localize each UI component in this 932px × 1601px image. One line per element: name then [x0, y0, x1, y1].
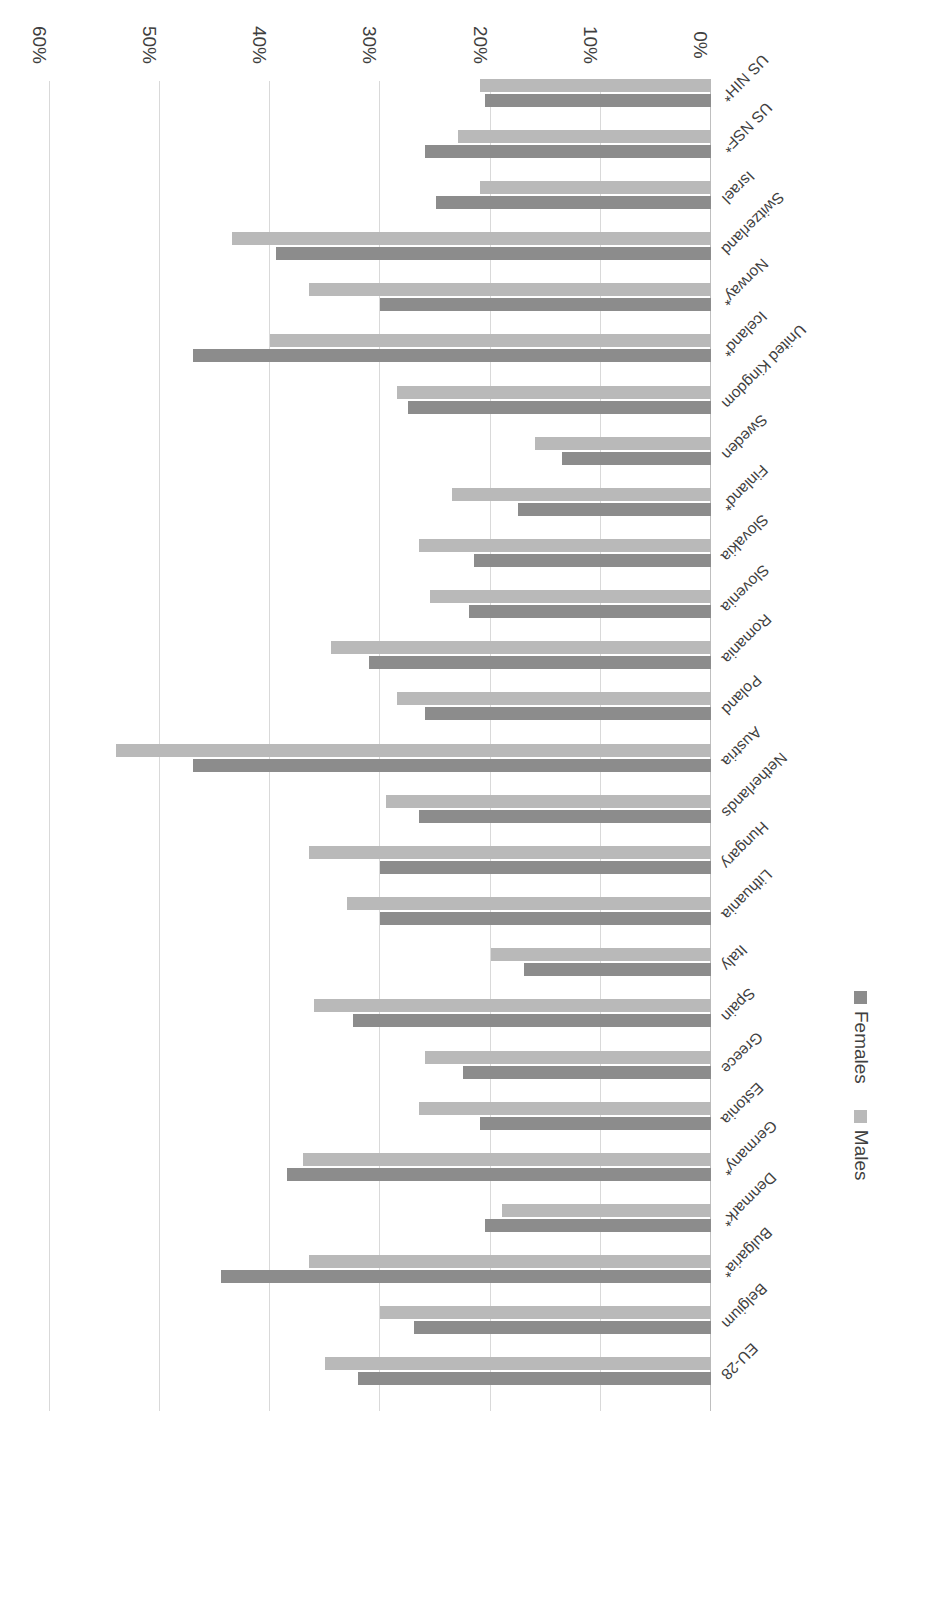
bar-females	[485, 94, 711, 107]
bar-group	[50, 1104, 711, 1155]
bar-group	[50, 951, 711, 1002]
bar-group	[50, 183, 711, 234]
bar-females	[193, 349, 711, 362]
category-label: Hungary	[718, 818, 773, 873]
category-label: Greece	[718, 1028, 767, 1077]
bar-females	[193, 759, 711, 772]
category-label: Slovakia	[718, 511, 773, 566]
rotated-chart-figure: EU-28BelgiumBulgaria*Denmark*Germany*Est…	[0, 0, 932, 1601]
category-label: Iceland*	[718, 308, 771, 361]
value-axis-labels: 0%10%20%30%40%50%60%	[50, 3, 711, 73]
bar-group	[50, 337, 711, 388]
bar-females	[562, 452, 711, 465]
bar-females	[287, 1168, 711, 1181]
bar-group	[50, 1206, 711, 1257]
value-label: 60%	[28, 26, 50, 64]
bar-group	[50, 695, 711, 746]
bar-group	[50, 644, 711, 695]
bar-females	[381, 912, 712, 925]
bar-group	[50, 1002, 711, 1053]
bar-group	[50, 848, 711, 899]
bar-group	[50, 797, 711, 848]
bar-females	[419, 810, 711, 823]
bar-females	[276, 247, 711, 260]
category-label: Lithuania	[718, 866, 776, 924]
category-label: Austria	[718, 723, 765, 770]
bar-rows	[50, 81, 711, 1411]
bar-group	[50, 1155, 711, 1206]
bar-group	[50, 81, 711, 132]
category-axis-labels: EU-28BelgiumBulgaria*Denmark*Germany*Est…	[714, 81, 932, 1411]
value-label: 50%	[138, 26, 160, 64]
bar-females	[425, 145, 711, 158]
legend-swatch-icon	[855, 1110, 868, 1123]
bar-group	[50, 132, 711, 183]
category-label: Belgium	[718, 1280, 771, 1333]
bar-group	[50, 286, 711, 337]
bar-group	[50, 899, 711, 950]
bar-females	[414, 1321, 711, 1334]
legend-label: Males	[850, 1130, 872, 1181]
bar-group	[50, 1309, 711, 1360]
value-label: 0%	[689, 31, 711, 58]
category-label: US NIH*	[718, 50, 773, 105]
bar-group	[50, 1360, 711, 1411]
category-label: Sweden	[718, 410, 771, 463]
bar-females	[358, 1372, 711, 1385]
bar-females	[480, 1117, 711, 1130]
bar-females	[221, 1270, 711, 1283]
bar-females	[381, 298, 712, 311]
bar-group	[50, 1053, 711, 1104]
bar-females	[474, 554, 711, 567]
category-label: Denmark*	[718, 1168, 780, 1230]
legend-item: Males	[850, 1110, 872, 1181]
bar-group	[50, 234, 711, 285]
category-label: Italy	[718, 941, 751, 974]
category-label: Romania	[718, 611, 775, 668]
bar-group	[50, 746, 711, 797]
bar-males	[480, 79, 711, 92]
bar-females	[436, 196, 711, 209]
bar-chart: EU-28BelgiumBulgaria*Denmark*Germany*Est…	[0, 0, 932, 1601]
category-label: US NSF*	[718, 98, 776, 156]
value-label: 10%	[579, 26, 601, 64]
category-label: Slovenia	[718, 561, 773, 616]
category-label: Israel	[718, 167, 758, 207]
bar-group	[50, 541, 711, 592]
bar-females	[463, 1066, 711, 1079]
category-label: EU-28	[718, 1340, 762, 1384]
bar-females	[381, 861, 712, 874]
bar-females	[524, 963, 711, 976]
bar-females	[518, 503, 711, 516]
bar-group	[50, 490, 711, 541]
value-label: 20%	[469, 26, 491, 64]
category-label: Spain	[718, 985, 759, 1026]
category-label: Finland*	[718, 461, 772, 515]
bar-females	[425, 707, 711, 720]
bar-group	[50, 1258, 711, 1309]
category-label: Norway*	[718, 255, 773, 310]
bar-females	[353, 1014, 711, 1027]
bar-group	[50, 593, 711, 644]
legend-swatch-icon	[855, 991, 868, 1004]
value-label: 30%	[359, 26, 381, 64]
bar-females	[485, 1219, 711, 1232]
legend-item: Females	[850, 991, 872, 1084]
legend-label: Females	[850, 1011, 872, 1084]
bar-females	[408, 401, 711, 414]
bar-group	[50, 439, 711, 490]
category-label: Poland	[718, 672, 765, 719]
plot-area	[50, 81, 711, 1411]
bar-females	[369, 656, 711, 669]
category-label: Bulgaria*	[718, 1224, 776, 1282]
category-label: Estonia	[718, 1078, 768, 1128]
bar-females	[469, 605, 711, 618]
bar-group	[50, 388, 711, 439]
value-label: 40%	[248, 26, 270, 64]
